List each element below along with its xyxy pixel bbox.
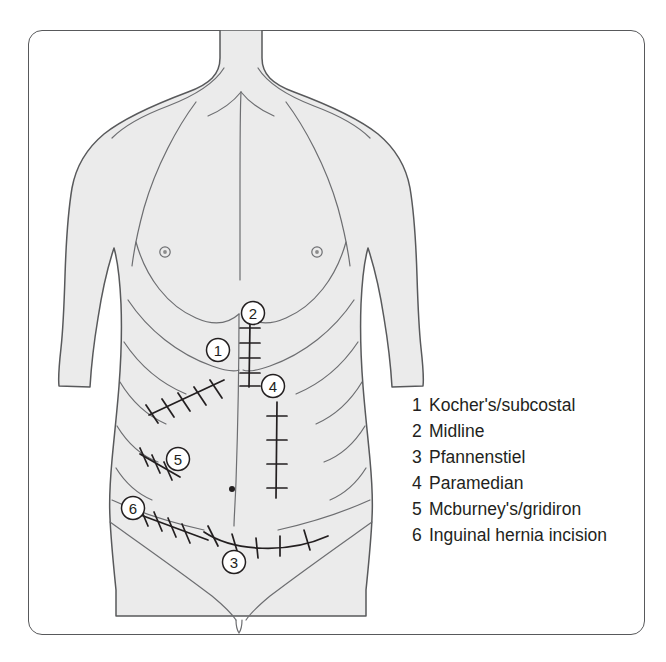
legend-label: Paramedian [429,470,642,496]
marker-2: 2 [242,302,265,325]
legend-label: Kocher's/subcostal [429,392,642,418]
legend-item-3: 3 Pfannenstiel [412,444,642,470]
svg-text:1: 1 [214,342,222,359]
marker-5: 5 [167,448,190,471]
svg-text:6: 6 [129,500,137,517]
torso-body [59,30,424,616]
legend-number: 1 [412,392,429,418]
legend-item-2: 2 Midline [412,418,642,444]
legend-number: 4 [412,470,429,496]
svg-text:4: 4 [269,378,277,395]
legend-number: 6 [412,522,429,548]
svg-text:2: 2 [249,305,257,322]
svg-text:5: 5 [174,451,182,468]
legend-item-1: 1 Kocher's/subcostal [412,392,642,418]
legend: 1 Kocher's/subcostal 2 Midline 3 Pfannen… [412,392,642,548]
legend-label: Mcburney's/gridiron [429,496,642,522]
marker-3: 3 [223,551,246,574]
legend-label: Midline [429,418,642,444]
diagram-page: 1 2 4 5 6 3 1 [0,0,666,662]
navel [229,486,235,492]
marker-1: 1 [207,339,230,362]
legend-item-6: 6 Inguinal hernia incision [412,522,642,548]
svg-text:3: 3 [230,554,238,571]
legend-number: 3 [412,444,429,470]
legend-number: 2 [412,418,429,444]
legend-label: Pfannenstiel [429,444,642,470]
marker-6: 6 [122,497,145,520]
marker-4: 4 [262,375,285,398]
legend-label: Inguinal hernia incision [429,522,642,548]
legend-item-4: 4 Paramedian [412,470,642,496]
legend-item-5: 5 Mcburney's/gridiron [412,496,642,522]
legend-number: 5 [412,496,429,522]
